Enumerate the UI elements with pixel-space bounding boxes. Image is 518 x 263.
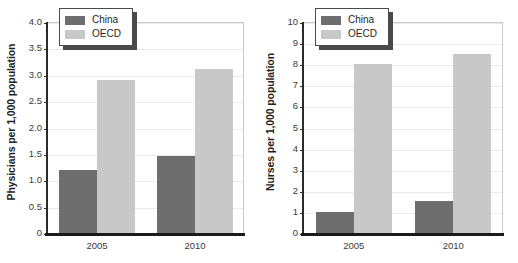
legend-swatch-china-icon	[321, 16, 341, 25]
y-axis-tick-label: 2	[293, 186, 298, 196]
panel-physicians: Physicians per 1,000 population 00.51.01…	[0, 0, 259, 263]
bar-oecd-2010	[453, 54, 491, 233]
y-axis-tick-label: 0	[293, 228, 298, 238]
dual-bar-chart-figure: Physicians per 1,000 population 00.51.01…	[0, 0, 518, 263]
y-axis-tick-label: 8	[293, 59, 298, 69]
y-axis-tick-label: 7	[293, 80, 298, 90]
y-axis-tick-label: 0	[37, 228, 42, 238]
y-axis-tick-label: 10	[287, 17, 298, 27]
y-axis-tick-label: 1.0	[29, 175, 42, 185]
legend-entry-oecd: OECD	[321, 27, 380, 41]
x-axis-tick-label: 2010	[184, 240, 205, 251]
x-axis-spine-nurses	[301, 233, 504, 236]
x-axis-tick-label: 2005	[86, 240, 107, 251]
x-axis-tick-label: 2010	[443, 240, 464, 251]
bar-oecd-2010	[195, 69, 233, 233]
y-axis-tick-label: 1.5	[29, 149, 42, 159]
legend-physicians: China OECD	[59, 8, 133, 46]
x-axis-spine-physicians	[45, 233, 245, 236]
bar-china-2005	[59, 170, 97, 233]
y-axis-tick-label: 5	[293, 123, 298, 133]
y-axis-tick-label: 9	[293, 38, 298, 48]
bar-oecd-2005	[97, 80, 135, 233]
legend-entry-china: China	[321, 13, 380, 27]
legend-swatch-china-icon	[65, 16, 85, 25]
y-axis-tick-labels-nurses: 012345678910	[274, 0, 301, 263]
legend-entry-oecd: OECD	[65, 27, 124, 41]
y-axis-spine-nurses	[302, 22, 304, 234]
y-axis-tick-label: 2.0	[29, 123, 42, 133]
legend-swatch-oecd-icon	[65, 30, 85, 39]
bar-oecd-2005	[354, 64, 392, 233]
y-axis-tick-label: 4	[293, 144, 298, 154]
y-axis-tick-label: 3.0	[29, 70, 42, 80]
plot-area-nurses	[304, 22, 503, 233]
legend-entry-china: China	[65, 13, 124, 27]
legend-label-china: China	[92, 14, 118, 26]
legend-label-china: China	[348, 14, 374, 26]
legend-swatch-oecd-icon	[321, 30, 341, 39]
x-axis-tick-label: 2005	[343, 240, 364, 251]
legend-nurses: China OECD	[315, 8, 389, 46]
y-axis-tick-label: 4.0	[29, 17, 42, 27]
y-axis-tick-label: 3	[293, 165, 298, 175]
legend-label-oecd: OECD	[348, 28, 377, 40]
y-axis-tick-label: 2.5	[29, 96, 42, 106]
y-axis-spine-physicians	[46, 22, 48, 234]
legend-label-oecd: OECD	[92, 28, 121, 40]
plot-area-physicians	[48, 22, 244, 233]
panel-nurses: Nurses per 1,000 population 012345678910…	[259, 0, 518, 263]
bar-china-2005	[316, 212, 354, 233]
y-axis-tick-label: 1	[293, 207, 298, 217]
y-axis-tick-label: 0.5	[29, 202, 42, 212]
y-axis-tick-labels-physicians: 00.51.01.52.02.53.03.54.0	[18, 0, 45, 263]
y-axis-tick-label: 6	[293, 101, 298, 111]
bar-china-2010	[157, 156, 195, 233]
bar-china-2010	[415, 201, 453, 233]
y-axis-tick-label: 3.5	[29, 43, 42, 53]
